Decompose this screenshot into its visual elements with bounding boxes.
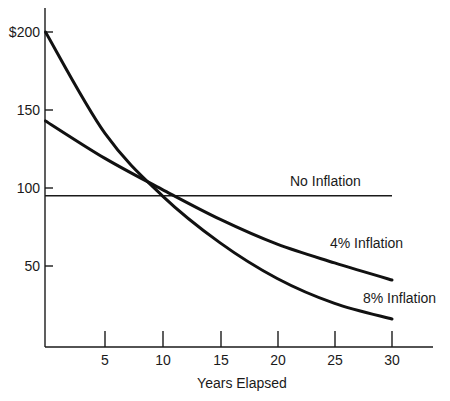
inflation-chart: $200 150 100 50 5 10 15 20 25 30 Years E… xyxy=(0,0,450,401)
eight-percent-inflation-label: 8% Inflation xyxy=(363,290,436,306)
four-percent-inflation-label: 4% Inflation xyxy=(330,235,403,251)
x-axis-label: Years Elapsed xyxy=(197,375,287,391)
y-tick-label: 50 xyxy=(24,258,40,274)
x-ticks xyxy=(105,331,392,347)
x-tick-labels: 5 10 15 20 25 30 xyxy=(101,352,400,368)
no-inflation-label: No Inflation xyxy=(290,173,361,189)
y-tick-label: $200 xyxy=(9,24,40,40)
x-tick-label: 30 xyxy=(384,352,400,368)
x-tick-label: 5 xyxy=(101,352,109,368)
y-tick-label: 150 xyxy=(17,102,41,118)
x-tick-label: 20 xyxy=(270,352,286,368)
y-tick-label: 100 xyxy=(17,180,41,196)
y-tick-labels: $200 150 100 50 xyxy=(9,24,40,274)
x-tick-label: 15 xyxy=(213,352,229,368)
y-ticks xyxy=(45,32,53,266)
x-tick-label: 10 xyxy=(155,352,171,368)
x-tick-label: 25 xyxy=(327,352,343,368)
four-percent-inflation-curve xyxy=(46,121,393,280)
